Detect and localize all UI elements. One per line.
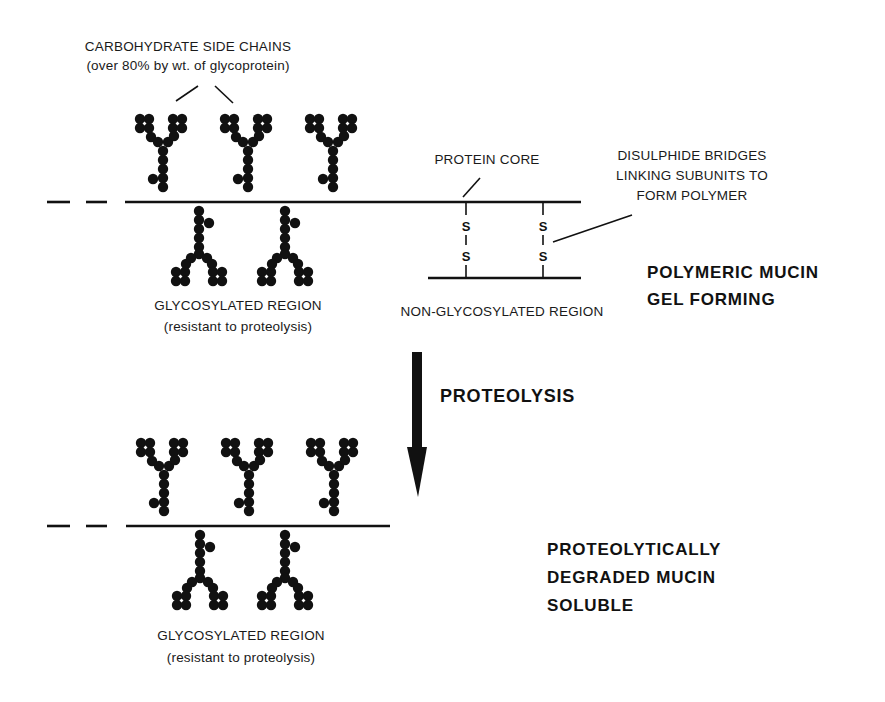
protein-core-label: PROTEIN CORE — [434, 152, 539, 167]
polymeric-mucin-label: POLYMERIC MUCIN — [647, 263, 819, 282]
carbohydrate-leader-line-right — [215, 86, 233, 103]
mucin-proteolysis-diagram: CARBOHYDRATE SIDE CHAINS (over 80% by wt… — [0, 0, 885, 702]
disulphide-leader-line — [553, 215, 632, 242]
svg-text:S: S — [539, 219, 548, 234]
protein-core-leader-line — [463, 178, 480, 197]
proteolysis-step: PROTEOLYSIS — [407, 352, 575, 497]
disulphide-bridge: S S — [462, 203, 471, 277]
soluble-label: SOLUBLE — [547, 596, 634, 615]
carbohydrate-chain — [136, 438, 188, 516]
glycosylated-region-label-degraded: GLYCOSYLATED REGION — [157, 628, 325, 643]
proteolytically-label: PROTEOLYTICALLY — [547, 540, 721, 559]
disulphide-bridges-label-line2: LINKING SUBUNITS TO — [616, 168, 768, 183]
polymeric-mucin-section: CARBOHYDRATE SIDE CHAINS (over 80% by wt… — [47, 39, 819, 334]
carbohydrate-chains-upper — [135, 114, 357, 192]
carbohydrate-chain — [172, 530, 228, 610]
carbohydrate-leader-line-left — [176, 86, 198, 101]
glycosylated-region-note: (resistant to proteolysis) — [164, 319, 313, 334]
non-glycosylated-region-label: NON-GLYCOSYLATED REGION — [401, 304, 604, 319]
degraded-mucin-section: GLYCOSYLATED REGION (resistant to proteo… — [47, 438, 721, 665]
carbohydrate-chain — [257, 206, 313, 286]
carbohydrate-chain — [257, 530, 313, 610]
glycosylated-region-label: GLYCOSYLATED REGION — [154, 298, 322, 313]
proteolysis-label: PROTEOLYSIS — [440, 386, 575, 406]
carbohydrate-chains-lower-degraded — [172, 530, 313, 610]
carbohydrate-chain — [305, 114, 357, 192]
carbohydrate-chains-upper-degraded — [136, 438, 358, 516]
degraded-mucin-label: DEGRADED MUCIN — [547, 568, 716, 587]
disulphide-bridge: S S — [539, 203, 548, 277]
glycosylated-region-note-degraded: (resistant to proteolysis) — [167, 650, 316, 665]
svg-text:S: S — [539, 249, 548, 264]
carbohydrate-chain — [220, 114, 272, 192]
carbohydrate-chain — [171, 206, 227, 286]
svg-text:S: S — [462, 219, 471, 234]
disulphide-bridges-label-line3: FORM POLYMER — [637, 188, 748, 203]
down-arrow-icon — [407, 352, 427, 497]
carbohydrate-chain — [306, 438, 358, 516]
carbohydrate-chains-lower — [171, 206, 313, 286]
carbohydrate-chain — [135, 114, 187, 192]
carbohydrate-weight-note: (over 80% by wt. of glycoprotein) — [86, 58, 289, 73]
carbohydrate-chain — [221, 438, 273, 516]
svg-text:S: S — [462, 249, 471, 264]
gel-forming-label: GEL FORMING — [647, 290, 775, 309]
disulphide-bridges-label: DISULPHIDE BRIDGES — [617, 148, 766, 163]
carbohydrate-side-chains-label: CARBOHYDRATE SIDE CHAINS — [85, 39, 291, 54]
